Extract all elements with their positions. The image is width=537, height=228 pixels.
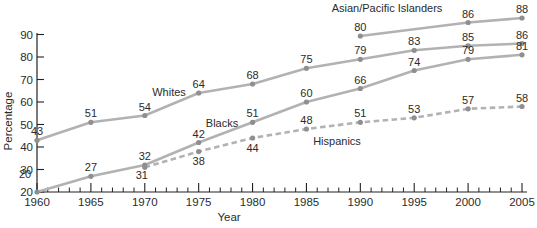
value-label-whites-1970: 54: [139, 101, 151, 113]
value-label-asian_pacific_islanders-1990: 80: [354, 21, 366, 33]
value-label-whites-1990: 79: [354, 44, 366, 56]
value-label-blacks-1995: 74: [408, 56, 420, 68]
y-tick-label: 70: [20, 74, 33, 86]
value-label-blacks-1980: 51: [246, 107, 258, 119]
data-point-whites-1995: [412, 48, 417, 53]
x-tick-label: 1995: [401, 196, 427, 208]
y-tick-label: 90: [20, 29, 33, 41]
value-label-asian_pacific_islanders-2005: 88: [516, 3, 528, 15]
value-label-blacks-1985: 60: [300, 87, 312, 99]
data-point-hispanics-2005: [519, 104, 524, 109]
value-label-asian_pacific_islanders-2000: 86: [462, 8, 474, 20]
data-point-whites-1965: [88, 120, 93, 125]
data-point-whites-1990: [358, 57, 363, 62]
data-point-blacks-1985: [304, 99, 309, 104]
x-tick-label: 1980: [240, 196, 266, 208]
series-asian_pacific_islanders: 808688Asian/Pacific Islanders: [332, 2, 528, 39]
value-label-whites-1965: 51: [85, 107, 97, 119]
data-point-blacks-1975: [196, 140, 201, 145]
x-tick-label: 2000: [455, 196, 481, 208]
data-point-hispanics-2000: [466, 106, 471, 111]
series-line-whites: [37, 44, 522, 141]
series-label-blacks: Blacks: [206, 117, 239, 129]
value-label-hispanics-1990: 51: [354, 107, 366, 119]
value-label-blacks-2000: 79: [462, 44, 474, 56]
data-point-hispanics-1975: [196, 149, 201, 154]
x-tick-label: 2005: [509, 196, 535, 208]
data-point-whites-1985: [304, 66, 309, 71]
y-tick-label: 60: [20, 96, 33, 108]
value-label-blacks-1970: 32: [139, 150, 151, 162]
data-point-hispanics-1985: [304, 126, 309, 131]
line-chart-figure: 2030405060708090196019651970197519801985…: [0, 0, 537, 228]
value-label-hispanics-1975: 38: [193, 155, 205, 167]
data-point-whites-1980: [250, 81, 255, 86]
data-point-asian_pacific_islanders-2005: [519, 15, 524, 20]
y-axis-title: Percentage: [2, 92, 14, 151]
data-point-blacks-2005: [519, 52, 524, 57]
value-label-whites-1985: 75: [300, 53, 312, 65]
data-point-whites-1975: [196, 90, 201, 95]
data-point-whites-1970: [142, 113, 147, 118]
data-point-blacks-1965: [88, 174, 93, 179]
x-tick-label: 1985: [294, 196, 320, 208]
series-line-asian_pacific_islanders: [360, 18, 522, 36]
x-tick-label: 1970: [132, 196, 158, 208]
value-label-blacks-2005: 81: [516, 40, 528, 52]
value-label-whites-1995: 83: [408, 35, 420, 47]
value-label-hispanics-2000: 57: [462, 94, 474, 106]
chart-canvas: 2030405060708090196019651970197519801985…: [0, 0, 537, 228]
data-point-blacks-1960: [34, 189, 39, 194]
value-label-hispanics-2005: 58: [516, 92, 528, 104]
data-point-asian_pacific_islanders-2000: [466, 20, 471, 25]
data-point-asian_pacific_islanders-1990: [358, 33, 363, 38]
value-label-hispanics-1985: 48: [300, 114, 312, 126]
data-point-blacks-2000: [466, 57, 471, 62]
value-label-blacks-1990: 66: [354, 74, 366, 86]
x-axis-title: Year: [217, 211, 240, 223]
data-point-blacks-1980: [250, 120, 255, 125]
value-label-whites-1980: 68: [246, 69, 258, 81]
series-label-whites: Whites: [152, 86, 186, 98]
data-point-hispanics-1980: [250, 135, 255, 140]
value-label-blacks-1960: 20: [19, 168, 31, 180]
series-label-hispanics: Hispanics: [313, 135, 361, 147]
value-label-blacks-1975: 42: [193, 128, 205, 140]
y-tick-label: 40: [20, 141, 33, 153]
data-point-whites-1960: [34, 138, 39, 143]
x-tick-label: 1975: [186, 196, 212, 208]
value-label-hispanics-1980: 44: [246, 142, 258, 154]
value-label-whites-1960: 43: [31, 125, 43, 137]
value-label-hispanics-1995: 53: [408, 103, 420, 115]
value-label-whites-2005: 86: [516, 29, 528, 41]
value-label-whites-2000: 85: [462, 31, 474, 43]
x-tick-label: 1965: [78, 196, 104, 208]
x-tick-label: 1960: [24, 196, 50, 208]
series-whites: 43515464687579838586Whites: [31, 29, 528, 143]
x-tick-label: 1990: [348, 196, 374, 208]
data-point-hispanics-1990: [358, 120, 363, 125]
value-label-blacks-1965: 27: [85, 161, 97, 173]
y-tick-label: 80: [20, 51, 33, 63]
data-point-blacks-1990: [358, 86, 363, 91]
data-point-hispanics-1995: [412, 115, 417, 120]
data-point-blacks-1995: [412, 68, 417, 73]
value-label-whites-1975: 64: [193, 78, 205, 90]
series-label-asian_pacific_islanders: Asian/Pacific Islanders: [332, 2, 443, 14]
value-label-hispanics-1970: 31: [136, 169, 148, 181]
